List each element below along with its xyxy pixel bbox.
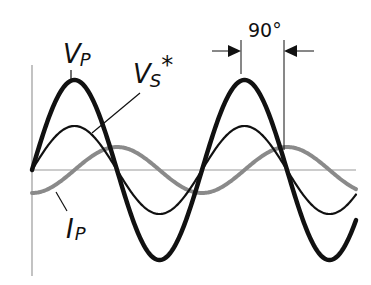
phase-arrow-right-icon <box>284 45 297 57</box>
phase-label: 90° <box>248 19 282 41</box>
vp-label: VP <box>63 39 91 70</box>
ip-label: IP <box>66 214 86 244</box>
vs-label: VS* <box>133 51 173 91</box>
waveform-svg: 90° VP VS* IP <box>0 0 371 285</box>
phase-arrow-left-icon <box>228 45 241 57</box>
ip-leader-line <box>56 192 67 211</box>
waveform-diagram: 90° VP VS* IP <box>0 0 371 285</box>
